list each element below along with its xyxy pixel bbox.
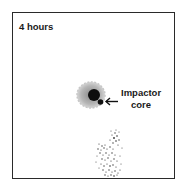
impactor-core-blob (98, 99, 104, 105)
simulation-scene (0, 0, 190, 191)
arrow-icon (106, 98, 118, 105)
impactor-core-label: Impactor core (121, 87, 161, 111)
planet-core (88, 89, 100, 101)
callout-line-1: Impactor (121, 87, 161, 99)
debris-cloud (96, 130, 123, 177)
callout-line-2: core (121, 99, 161, 111)
